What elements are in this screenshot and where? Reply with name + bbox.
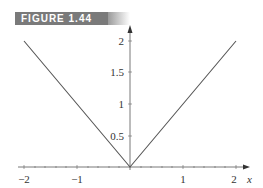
y-tick-label: 0.5 [110,130,124,142]
y-tick-label: 1 [119,98,125,110]
x-axis-label: x [246,173,252,185]
x-tick-label: −1 [71,173,83,185]
y-axis-arrow-icon [128,25,133,33]
x-axis-arrow-icon [243,165,250,170]
x-tick-label: −2 [18,173,30,185]
chart: −2 −1 1 2 x 0.5 1 1.5 2 [0,0,263,188]
x-tick-label: 1 [180,173,186,185]
y-tick-label: 2 [119,35,125,47]
y-tick-label: 1.5 [110,66,124,78]
x-tick-label: 2 [231,173,237,185]
